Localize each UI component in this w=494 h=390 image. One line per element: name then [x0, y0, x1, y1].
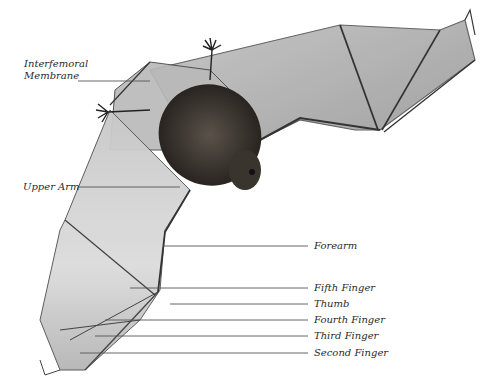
label-interfemoral-line2: Membrane [24, 70, 79, 82]
label-upper-arm: Upper Arm [23, 181, 80, 193]
label-fifth-finger: Fifth Finger [314, 282, 375, 294]
label-second-finger: Second Finger [314, 347, 388, 359]
label-thumb: Thumb [314, 298, 349, 310]
label-forearm: Forearm [314, 240, 357, 252]
bat-anatomy-diagram: Interfemoral Membrane Upper Arm Forearm … [0, 0, 494, 390]
label-interfemoral-line1: Interfemoral [24, 58, 88, 70]
label-third-finger: Third Finger [314, 330, 378, 342]
label-fourth-finger: Fourth Finger [314, 314, 385, 326]
